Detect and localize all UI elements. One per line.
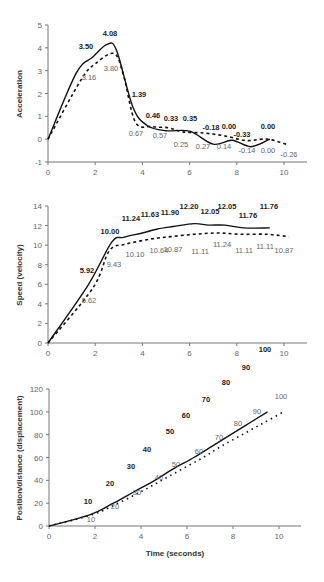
data-label: 80: [234, 419, 242, 428]
x-tick-label: 10: [280, 168, 289, 177]
data-label: 11.11: [235, 246, 253, 255]
y-tick-label: 10: [33, 241, 42, 250]
x-tick-label: 8: [235, 349, 240, 358]
x-tick-label: 4: [140, 349, 145, 358]
y-tick-label: 5: [38, 21, 43, 30]
series-solid-line: [48, 224, 270, 343]
y-tick-label: 2: [38, 90, 43, 99]
data-label: 1.39: [132, 90, 147, 99]
y-tick-label: 0: [39, 522, 44, 531]
chart-position: 0204060801001200246810102030405060708090…: [30, 345, 301, 541]
data-label: 12.20: [180, 202, 199, 211]
y-tick-label: 0: [38, 135, 43, 144]
data-label: 11.76: [239, 211, 257, 220]
y-axis-title-acceleration: Acceleration: [15, 70, 24, 118]
y-tick-label: 14: [33, 202, 42, 211]
data-label: 3.16: [82, 73, 97, 82]
data-label: 11.63: [141, 210, 159, 219]
y-tick-label: 40: [34, 476, 43, 485]
data-label: 20: [111, 502, 119, 511]
data-label: 10: [84, 497, 92, 506]
data-label: 0.14: [217, 142, 232, 151]
data-label: 11.11: [256, 242, 274, 251]
x-tick-label: 2: [93, 168, 98, 177]
data-label: 12.05: [218, 202, 237, 211]
x-tick-label: 0: [46, 349, 51, 358]
chart-speed: 0246810121402468105.9210.0011.2411.6311.…: [33, 202, 307, 358]
data-label: 50: [166, 427, 174, 436]
x-tick-label: 4: [139, 532, 144, 541]
data-label: 90: [242, 363, 250, 372]
data-label: 80: [222, 378, 230, 387]
data-label: 5.62: [82, 296, 97, 305]
data-label: 90: [253, 407, 261, 416]
x-axis-title: Time (seconds): [146, 549, 205, 558]
data-label: 0.00: [261, 122, 276, 131]
x-tick-label: 2: [93, 349, 98, 358]
data-label: 12.05: [201, 207, 220, 216]
y-tick-label: 2: [38, 319, 43, 328]
data-label: 100: [275, 392, 288, 401]
data-label: 11.24: [213, 240, 231, 249]
data-label: -0.14: [238, 146, 255, 155]
data-label: 0.27: [196, 142, 211, 151]
data-label: 70: [215, 433, 223, 442]
data-label: 3.50: [79, 42, 94, 51]
x-tick-label: 0: [47, 532, 52, 541]
data-label: 70: [202, 395, 210, 404]
data-label: 4.08: [103, 29, 118, 38]
data-label: 50: [172, 460, 180, 469]
data-label: 0.33: [164, 114, 179, 123]
data-label: 0.35: [183, 114, 198, 123]
y-tick-label: 120: [30, 385, 44, 394]
data-label: 30: [127, 462, 135, 471]
y-tick-label: -1: [35, 158, 43, 167]
data-label: 30: [133, 488, 141, 497]
data-label: 11.90: [161, 208, 179, 217]
data-label: 0.46: [146, 111, 161, 120]
x-tick-label: 6: [187, 349, 192, 358]
y-tick-label: 100: [30, 408, 44, 417]
data-label: -0.18: [202, 123, 219, 132]
x-tick-label: 8: [235, 168, 240, 177]
y-tick-label: 6: [38, 280, 43, 289]
chart-acceleration: -101234502468103.504.081.390.460.330.35-…: [35, 21, 307, 177]
data-label: 11.24: [122, 214, 141, 223]
y-tick-label: 4: [38, 44, 43, 53]
data-label: 40: [143, 445, 151, 454]
data-label: 60: [182, 411, 190, 420]
data-label: 40: [155, 473, 163, 482]
data-label: 20: [106, 479, 114, 488]
x-tick-label: 0: [46, 168, 51, 177]
x-tick-label: 10: [275, 532, 284, 541]
data-label: 0.57: [153, 131, 168, 140]
y-axis-title-speed: Speed (velocity): [15, 244, 24, 306]
data-label: 10.10: [126, 250, 145, 259]
y-tick-label: 8: [38, 261, 43, 270]
data-label: 60: [195, 447, 203, 456]
y-tick-label: 60: [34, 454, 43, 463]
data-label: 0.25: [174, 140, 189, 149]
y-tick-label: 80: [34, 431, 43, 440]
data-label: 10.00: [101, 227, 120, 236]
data-label: -0.26: [280, 150, 297, 159]
data-label: 11.11: [191, 247, 209, 256]
data-label: -0.33: [233, 130, 250, 139]
data-label: 11.76: [260, 202, 278, 211]
y-tick-label: 3: [38, 67, 43, 76]
y-tick-label: 20: [34, 499, 43, 508]
data-label: 0.67: [129, 129, 144, 138]
chart-canvas: -101234502468103.504.081.390.460.330.35-…: [0, 0, 324, 582]
y-tick-label: 0: [38, 339, 43, 348]
y-axis-title-position: Position/distance (displacement): [15, 395, 24, 520]
data-label: 10.87: [275, 246, 294, 255]
x-tick-label: 10: [280, 349, 289, 358]
data-label: 9.43: [107, 260, 122, 269]
y-tick-label: 12: [33, 222, 42, 231]
x-tick-label: 6: [185, 532, 190, 541]
data-label: 100: [259, 345, 272, 354]
y-tick-label: 1: [38, 112, 43, 121]
data-label: 5.92: [80, 266, 95, 275]
series-solid-line: [49, 412, 268, 526]
x-tick-label: 4: [140, 168, 145, 177]
